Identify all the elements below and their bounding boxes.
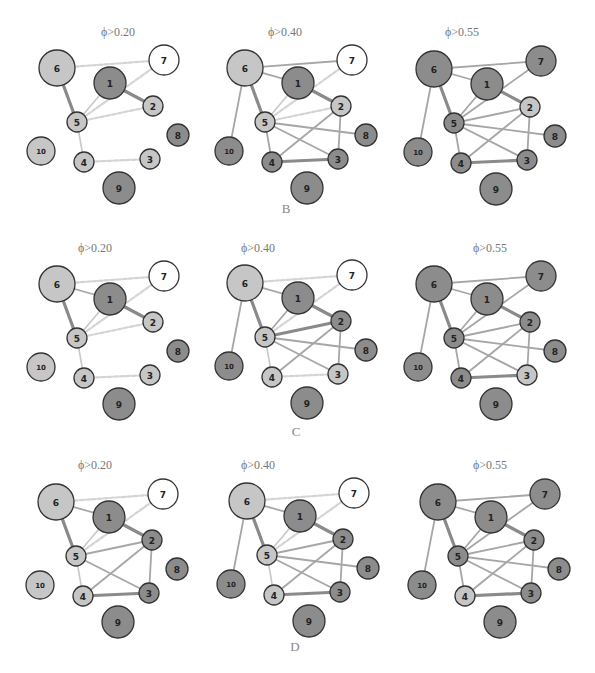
node-4: 4: [262, 152, 282, 172]
node-2: 2: [520, 97, 540, 117]
node-6: 6: [229, 483, 265, 519]
node-7: 7: [148, 479, 178, 509]
network-panel: ϕ>0.4012345678910: [217, 458, 379, 637]
node-5: 5: [255, 112, 275, 132]
node-label: 7: [349, 56, 355, 66]
node-5: 5: [66, 546, 86, 566]
node-10: 10: [408, 571, 436, 599]
nodes: 12345678910: [215, 260, 377, 419]
node-2: 2: [333, 529, 353, 549]
node-3: 3: [328, 364, 348, 384]
nodes: 12345678910: [26, 479, 188, 638]
panel-title: ϕ>0.40: [241, 241, 275, 255]
node-label: 2: [150, 102, 156, 112]
node-9: 9: [291, 387, 323, 419]
node-label: 7: [349, 271, 355, 281]
node-10: 10: [215, 352, 243, 380]
node-label: 6: [431, 65, 437, 75]
node-7: 7: [339, 478, 369, 508]
node-4: 4: [262, 367, 282, 387]
node-label: 3: [528, 589, 534, 599]
node-9: 9: [102, 606, 134, 638]
section-c: ϕ>0.2012345678910ϕ>0.4012345678910ϕ>0.55…: [27, 241, 566, 439]
panel-title: ϕ>0.55: [473, 241, 507, 255]
network-panel: ϕ>0.4012345678910: [215, 25, 377, 204]
node-4: 4: [455, 586, 475, 606]
nodes: 12345678910: [27, 45, 189, 204]
node-4: 4: [74, 152, 94, 172]
node-8: 8: [355, 124, 377, 146]
node-label: 5: [262, 118, 268, 128]
node-10: 10: [215, 137, 243, 165]
node-label: 9: [497, 618, 503, 628]
node-7: 7: [526, 46, 556, 76]
node-2: 2: [142, 530, 162, 550]
node-label: 6: [435, 498, 441, 508]
node-9: 9: [484, 606, 516, 638]
edge-5-8: [458, 556, 559, 569]
node-label: 10: [224, 148, 234, 156]
node-7: 7: [526, 261, 556, 291]
node-label: 5: [74, 118, 80, 128]
edge-5-8: [267, 555, 368, 568]
node-label: 3: [335, 155, 341, 165]
node-4: 4: [264, 585, 284, 605]
node-label: 4: [80, 592, 86, 602]
node-label: 6: [54, 280, 60, 290]
panel-title: ϕ>0.20: [78, 458, 112, 472]
node-10: 10: [27, 137, 55, 165]
node-label: 9: [115, 618, 121, 628]
node-label: 8: [552, 347, 558, 357]
node-4: 4: [73, 586, 93, 606]
node-label: 9: [304, 184, 310, 194]
network-panel: ϕ>0.5512345678910: [404, 241, 566, 420]
panel-title: ϕ>0.20: [101, 25, 135, 39]
node-6: 6: [39, 266, 75, 302]
node-label: 8: [365, 564, 371, 574]
network-panel: ϕ>0.2012345678910: [27, 241, 189, 420]
node-4: 4: [451, 368, 471, 388]
node-label: 2: [338, 102, 344, 112]
node-label: 10: [35, 582, 45, 590]
node-3: 3: [517, 365, 537, 385]
node-3: 3: [517, 150, 537, 170]
node-label: 5: [455, 552, 461, 562]
node-label: 1: [295, 79, 301, 89]
network-panel: ϕ>0.5512345678910: [408, 458, 570, 638]
node-2: 2: [331, 96, 351, 116]
nodes: 12345678910: [217, 478, 379, 637]
node-label: 10: [417, 582, 427, 590]
node-label: 5: [264, 551, 270, 561]
node-8: 8: [167, 124, 189, 146]
section-label: B: [282, 201, 291, 216]
edge-5-8: [454, 338, 555, 351]
node-label: 1: [488, 513, 494, 523]
node-1: 1: [93, 501, 125, 533]
node-6: 6: [420, 484, 456, 520]
node-label: 9: [493, 185, 499, 195]
node-3: 3: [140, 149, 160, 169]
node-1: 1: [94, 283, 126, 315]
node-10: 10: [404, 353, 432, 381]
node-label: 6: [242, 64, 248, 74]
edge-5-8: [265, 122, 366, 135]
panel-title: ϕ>0.55: [445, 25, 479, 39]
node-2: 2: [520, 312, 540, 332]
node-label: 1: [484, 295, 490, 305]
node-label: 8: [363, 131, 369, 141]
node-3: 3: [521, 583, 541, 603]
node-label: 10: [413, 149, 423, 157]
node-label: 2: [340, 535, 346, 545]
node-label: 8: [174, 565, 180, 575]
node-label: 6: [431, 280, 437, 290]
node-label: 5: [451, 119, 457, 129]
node-label: 4: [271, 591, 277, 601]
node-label: 6: [244, 497, 250, 507]
panel-title: ϕ>0.55: [473, 458, 507, 472]
node-label: 7: [538, 272, 544, 282]
nodes: 12345678910: [27, 261, 189, 420]
node-1: 1: [282, 67, 314, 99]
nodes: 12345678910: [408, 479, 570, 638]
node-9: 9: [103, 172, 135, 204]
node-label: 1: [484, 80, 490, 90]
